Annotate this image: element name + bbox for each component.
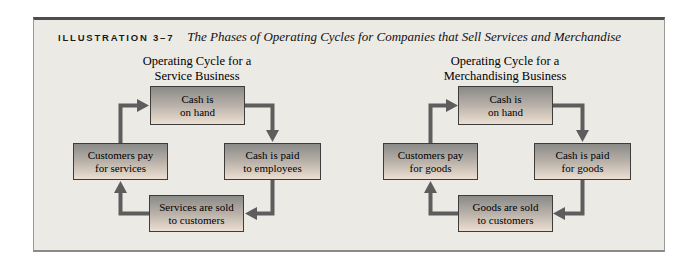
arrow-paid-to-services-sold bbox=[256, 180, 273, 214]
box-text: Services are sold bbox=[159, 201, 234, 214]
merchandising-cycle-title-line1: Operating Cycle for a bbox=[405, 54, 605, 69]
box-text: Customers pay bbox=[398, 149, 464, 162]
merchandising-cycle-title-line2: Merchandising Business bbox=[405, 69, 605, 84]
box-text: to customers bbox=[169, 214, 225, 227]
arrow-services-sold-to-customers-pay bbox=[121, 192, 150, 214]
service-cycle-title: Operating Cycle for a Service Business bbox=[97, 54, 297, 84]
box-text: Cash is bbox=[489, 93, 521, 106]
box-cash-on-hand-merch: Cash is on hand bbox=[458, 86, 553, 125]
box-text: on hand bbox=[488, 106, 523, 119]
box-text: to employees bbox=[243, 162, 301, 175]
box-text: Cash is paid bbox=[246, 149, 300, 162]
arrow-customers-pay-to-cash-service bbox=[121, 106, 139, 144]
box-services-sold-to-customers: Services are sold to customers bbox=[149, 195, 244, 232]
service-cycle-title-line1: Operating Cycle for a bbox=[97, 54, 297, 69]
box-text: to customers bbox=[478, 214, 534, 227]
box-goods-sold-to-customers: Goods are sold to customers bbox=[458, 195, 553, 232]
box-text: Goods are sold bbox=[473, 201, 539, 214]
box-text: Cash is bbox=[181, 93, 213, 106]
box-customers-pay-for-services: Customers pay for services bbox=[73, 143, 168, 180]
arrow-cash-to-paid-merch bbox=[553, 106, 583, 132]
illustration-panel: ILLUSTRATION 3–7 The Phases of Operating… bbox=[33, 17, 665, 252]
arrow-cash-to-paid-service bbox=[245, 106, 273, 132]
arrow-customers-pay-to-cash-merch bbox=[431, 106, 448, 144]
box-cash-paid-for-goods: Cash is paid for goods bbox=[534, 143, 631, 180]
box-customers-pay-for-goods: Customers pay for goods bbox=[383, 143, 478, 180]
box-cash-on-hand-service: Cash is on hand bbox=[150, 86, 245, 125]
illustration-caption: The Phases of Operating Cycles for Compa… bbox=[187, 29, 621, 45]
arrow-paid-to-goods-sold bbox=[564, 180, 583, 214]
box-text: for goods bbox=[410, 162, 452, 175]
service-cycle-title-line2: Service Business bbox=[97, 69, 297, 84]
box-cash-paid-to-employees: Cash is paid to employees bbox=[224, 143, 321, 180]
merchandising-cycle-title: Operating Cycle for a Merchandising Busi… bbox=[405, 54, 605, 84]
illustration-number-label: ILLUSTRATION 3–7 bbox=[58, 32, 174, 43]
box-text: Cash is paid bbox=[556, 149, 610, 162]
panel-header: ILLUSTRATION 3–7 The Phases of Operating… bbox=[58, 29, 621, 45]
box-text: for services bbox=[95, 162, 146, 175]
arrow-goods-sold-to-customers-pay bbox=[431, 192, 459, 214]
box-text: Customers pay bbox=[88, 149, 154, 162]
box-text: on hand bbox=[180, 106, 215, 119]
box-text: for goods bbox=[562, 162, 604, 175]
